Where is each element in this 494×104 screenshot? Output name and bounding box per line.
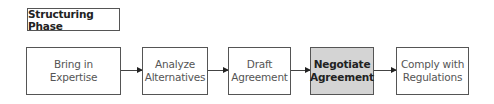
step-bring-in-expertise: Bring in Expertise xyxy=(26,47,121,95)
step-analyze-alternatives: Analyze Alternatives xyxy=(142,47,208,95)
phase-title-box: Structuring Phase xyxy=(27,8,120,31)
step-label-line1: Comply with xyxy=(401,58,464,71)
step-label-line2: Regulations xyxy=(401,71,464,84)
step-label-line1: Bring in xyxy=(50,58,97,71)
step-label-line1: Negotiate xyxy=(310,58,374,71)
arrow-right-icon xyxy=(121,70,142,71)
arrow-right-icon xyxy=(374,70,396,71)
step-draft-agreement: Draft Agreement xyxy=(228,47,291,95)
arrow-right-icon xyxy=(291,70,310,71)
step-negotiate-agreement: Negotiate Agreement xyxy=(310,47,374,95)
phase-title: Structuring Phase xyxy=(28,8,119,32)
step-label-line1: Analyze xyxy=(145,58,206,71)
step-label-line2: Alternatives xyxy=(145,71,206,84)
step-label-line2: Expertise xyxy=(50,71,97,84)
arrow-right-icon xyxy=(208,70,228,71)
step-label-line2: Agreement xyxy=(310,71,374,84)
step-label-line1: Draft xyxy=(231,58,288,71)
step-comply-with-regulations: Comply with Regulations xyxy=(396,47,469,95)
step-label-line2: Agreement xyxy=(231,71,288,84)
